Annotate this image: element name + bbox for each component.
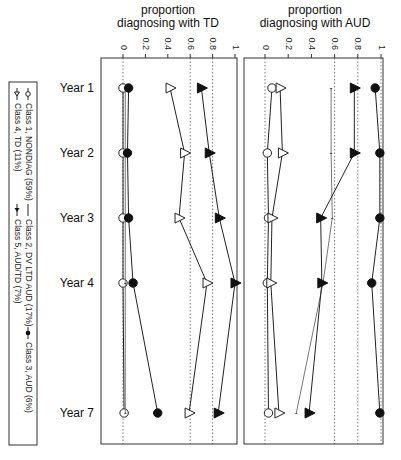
panel-title: diagnosing with TD <box>117 16 219 30</box>
legend-item: Class 5, AUD/TD (7%) <box>13 219 23 304</box>
panel-title: proportion <box>288 3 342 17</box>
series-line <box>123 88 124 413</box>
legend: Class 1, NONDIAG (59%)Class 2, DV LTD AU… <box>9 82 37 445</box>
series-line <box>372 88 380 413</box>
data-point <box>371 84 379 92</box>
data-point <box>376 409 384 417</box>
x-tick-label: 0.2 <box>284 37 294 50</box>
data-point <box>203 278 213 288</box>
data-point <box>197 83 207 93</box>
x-tick-label: 0 <box>261 45 271 50</box>
data-point <box>267 278 277 288</box>
legend-item: Class 2, DV LTD AUD (17%) <box>24 219 34 327</box>
chart: Year 1Year 2Year 3Year 4Year 7proportion… <box>0 0 401 460</box>
data-point <box>264 409 272 417</box>
year-label: Year 4 <box>60 276 95 290</box>
x-tick-label: 0.6 <box>330 37 340 50</box>
data-point: - <box>330 83 333 93</box>
data-point <box>275 408 285 418</box>
year-label: Year 2 <box>60 146 95 160</box>
data-point <box>268 84 276 92</box>
x-tick-label: 0.6 <box>186 37 196 50</box>
data-point <box>305 408 315 418</box>
data-point: - <box>331 213 334 223</box>
panel-title: diagnosing with AUD <box>260 16 371 30</box>
data-point <box>154 409 162 417</box>
x-tick-label: 0.4 <box>163 37 173 50</box>
data-point <box>124 84 132 92</box>
data-point <box>231 278 241 288</box>
data-point <box>181 148 191 158</box>
panel-td: proportiondiagnosing with TD00.20.40.60.… <box>101 3 241 444</box>
x-tick-label: 0.4 <box>307 37 317 50</box>
x-tick-label: 0.8 <box>353 37 363 50</box>
data-point <box>278 148 288 158</box>
data-point <box>129 279 137 287</box>
series-line <box>127 88 157 413</box>
data-point <box>124 214 132 222</box>
data-point <box>123 149 131 157</box>
legend-item: Class 1, NONDIAG (59%) <box>24 103 34 201</box>
series-line <box>309 88 354 413</box>
data-point: - <box>295 408 298 418</box>
year-label: Year 1 <box>60 81 95 95</box>
data-point <box>350 83 360 93</box>
x-tick-label: 1 <box>377 45 387 50</box>
x-tick-label: 1 <box>231 45 241 50</box>
data-point <box>368 279 376 287</box>
legend-item: Class 3, AUD (6%) <box>24 342 34 413</box>
data-point: - <box>330 148 333 158</box>
x-tick-label: 0.2 <box>141 37 151 50</box>
year-label: Year 3 <box>60 211 95 225</box>
panel-title: proportion <box>141 3 195 17</box>
x-tick-label: 0.8 <box>208 37 218 50</box>
data-point <box>376 149 384 157</box>
data-point <box>263 149 271 157</box>
series-line <box>271 88 283 413</box>
data-point <box>376 214 384 222</box>
year-label: Year 7 <box>60 406 95 420</box>
series-line <box>170 88 207 413</box>
data-point <box>276 83 286 93</box>
data-point <box>214 408 224 418</box>
data-point <box>317 213 327 223</box>
x-tick-label: 0 <box>119 45 129 50</box>
series-line <box>201 88 235 413</box>
panel-aud: proportiondiagnosing with AUD00.20.40.60… <box>244 3 387 444</box>
data-point: - <box>124 408 127 418</box>
data-point <box>350 148 360 158</box>
legend-item: Class 4, TD (11%) <box>13 103 23 172</box>
data-point: - <box>124 278 127 288</box>
